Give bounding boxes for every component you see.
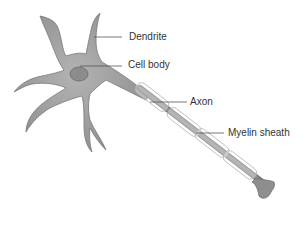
axon-terminal	[252, 178, 275, 198]
label-cell-body: Cell body	[128, 59, 170, 71]
nucleus	[70, 67, 88, 81]
leader-lines	[80, 37, 224, 133]
label-dendrite: Dendrite	[129, 31, 167, 43]
label-myelin-sheath: Myelin sheath	[228, 127, 290, 139]
label-axon: Axon	[190, 96, 213, 108]
